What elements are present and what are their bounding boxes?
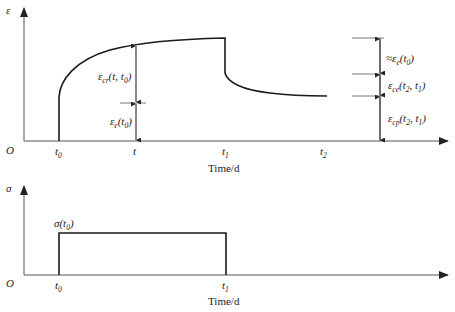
creep-recovery-diagram: ε O εcr(t, t0) εe(t0) ≈εe(t0) εce(t2, t1… <box>0 0 455 312</box>
strain-y-label: ε <box>6 4 11 16</box>
tick-t: t <box>133 145 137 157</box>
creep-strain-label: εcr(t, t0) <box>98 70 132 85</box>
strain-x-label: Time/d <box>208 162 240 174</box>
strain-chart: ε O εcr(t, t0) εe(t0) ≈εe(t0) εce(t2, t1… <box>6 4 448 174</box>
strain-curve <box>59 38 327 141</box>
stress-tick-t1: t1 <box>222 279 229 294</box>
approx-elastic-recovery-label: ≈εe(t0) <box>386 52 414 67</box>
tick-t1: t1 <box>222 145 229 160</box>
stress-pulse <box>59 233 226 275</box>
elastic-strain-label: εe(t0) <box>110 115 132 130</box>
stress-chart: σ O σ(t0) t0 t1 Time/d <box>6 182 448 307</box>
tick-t2: t2 <box>320 145 327 160</box>
strain-origin-label: O <box>6 144 14 156</box>
stress-x-label: Time/d <box>208 295 240 307</box>
stress-tick-t0: t0 <box>55 279 62 294</box>
tick-t0: t0 <box>55 145 62 160</box>
residual-creep-label: εcp(t2, t1) <box>388 112 426 127</box>
stress-y-label: σ <box>6 182 12 194</box>
stress-level-label: σ(t0) <box>54 217 74 232</box>
stress-origin-label: O <box>6 277 14 289</box>
creep-recovery-label: εce(t2, t1) <box>388 79 426 94</box>
